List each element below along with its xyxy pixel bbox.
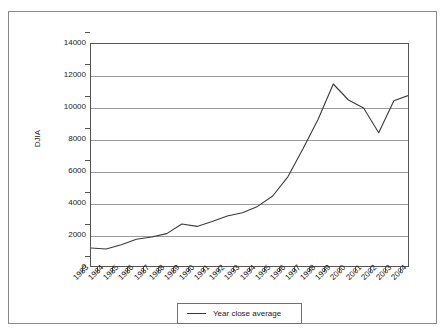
x-axis-tick [355, 267, 356, 272]
y-axis-tick-label: 2000 [42, 231, 86, 239]
cropped-caption-text [69, 5, 409, 14]
x-axis-tick [158, 267, 159, 272]
x-axis-tick [294, 267, 295, 272]
x-axis-tick [97, 267, 98, 272]
y-axis-tick [85, 32, 90, 33]
x-axis-tick [385, 267, 386, 272]
x-axis-tick [309, 267, 310, 272]
x-axis-tick [264, 267, 265, 272]
x-axis-tick [279, 267, 280, 272]
x-axis-tick [370, 267, 371, 272]
y-axis-tick-label: 8000 [42, 135, 86, 143]
y-axis-tick-label: 6000 [42, 167, 86, 175]
x-axis-tick [127, 267, 128, 272]
x-axis-tick [82, 267, 83, 272]
x-axis-tick [143, 267, 144, 272]
y-axis-tick-label: 0 [42, 263, 86, 271]
y-axis-tick-label: 12000 [42, 71, 86, 79]
series-line-year-close-average [91, 44, 408, 266]
legend-label: Year close average [213, 309, 281, 318]
x-axis-tick [203, 267, 204, 272]
plot-area [90, 43, 409, 267]
x-axis-tick [218, 267, 219, 272]
series-polyline [91, 84, 408, 249]
y-axis-tick-label: 4000 [42, 199, 86, 207]
x-axis-tick [339, 267, 340, 272]
x-axis-tick [112, 267, 113, 272]
x-axis-tick [249, 267, 250, 272]
legend-line-swatch-icon [187, 313, 206, 314]
figure-frame: DJIA 14000120001000080006000400020000 19… [8, 11, 437, 324]
y-axis-tick-label: 14000 [42, 39, 86, 47]
x-axis-tick [324, 267, 325, 272]
chart-legend: Year close average [177, 303, 302, 324]
chart-page: DJIA 14000120001000080006000400020000 19… [0, 0, 446, 332]
x-axis-tick [233, 267, 234, 272]
x-axis-tick [400, 267, 401, 272]
x-axis-tick [173, 267, 174, 272]
x-axis-tick [188, 267, 189, 272]
y-axis-tick-label: 10000 [42, 103, 86, 111]
y-axis-tick-labels: 14000120001000080006000400020000 [40, 43, 86, 267]
